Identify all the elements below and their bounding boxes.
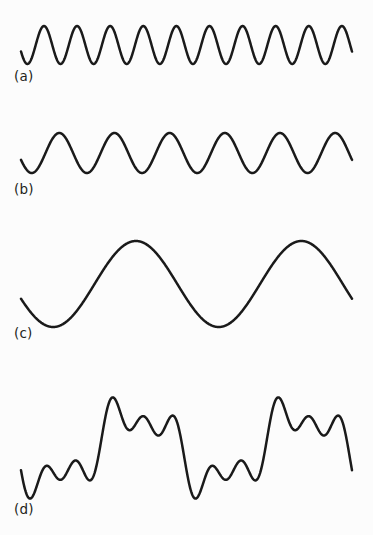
panel-label-b: (b) bbox=[14, 183, 34, 197]
canvas-background bbox=[0, 0, 373, 535]
panel-label-c: (c) bbox=[14, 327, 33, 341]
panel-label-d: (d) bbox=[14, 503, 34, 517]
panel-label-a: (a) bbox=[14, 70, 33, 84]
wave-figure: (a) (b) (c) (d) bbox=[0, 0, 373, 535]
wave-canvas bbox=[0, 0, 373, 535]
